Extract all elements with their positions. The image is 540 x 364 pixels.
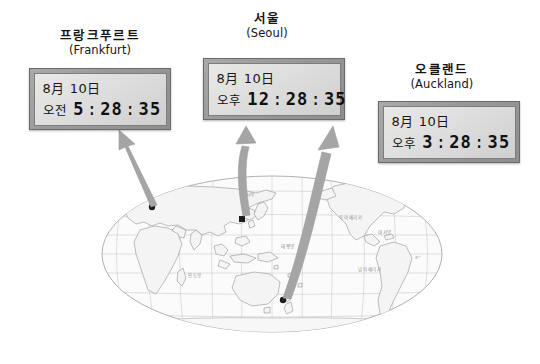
clock-digits-frankfurt: 5:28:35 [73,99,161,119]
time-zone-diagram: 유럽 아시아 북아메리카 대서양 태평양 인도양 남아메리카 0° [0,0,540,364]
scale-bar-zero-label: 0 [169,323,172,328]
clock-digits-seoul: 12:28:35 [247,89,347,109]
map-label-asia: 아시아 [241,191,256,198]
city-caption-seoul: 서울 (Seoul) [197,12,337,40]
clock-hour-seoul: 12 [247,89,270,109]
city-marker-seoul[interactable] [239,216,245,222]
city-name-ko-frankfurt: 프랑크푸르트 [30,29,170,43]
clock-hour-frankfurt: 5 [73,99,84,119]
map-label-indian-ocean: 인도양 [188,272,203,278]
clock-meridiem-auckland: 오후 [392,133,417,152]
map-scale-bar: 0 3000km [169,323,203,332]
city-name-en-frankfurt: (Frankfurt) [30,44,170,57]
clock-time-frankfurt: 오전 5:28:35 [43,99,158,119]
city-name-ko-seoul: 서울 [197,12,337,26]
clock-meridiem-seoul: 오후 [217,90,242,109]
clock-time-auckland: 오후 3:28:35 [392,132,507,152]
clock-seoul[interactable]: 8月 10日 오후 12:28:35 [203,58,345,120]
clock-minute-auckland: 28 [449,132,472,152]
city-marker-frankfurt[interactable] [149,204,155,210]
map-label-north-america: 북아메리카 [339,214,364,221]
clock-date-auckland: 8月 10日 [392,111,507,130]
arrow-to-seoul-head-icon [236,126,256,144]
city-caption-frankfurt: 프랑크푸르트 (Frankfurt) [30,29,170,57]
clock-sep2-frankfurt: : [123,99,138,119]
clock-minute-seoul: 28 [286,89,309,109]
clock-sep1-seoul: : [270,89,285,109]
map-label-south-america: 남아메리카 [358,266,383,273]
clock-screen-seoul: 8月 10日 오후 12:28:35 [208,63,341,116]
city-name-en-auckland: (Auckland) [372,78,512,91]
clock-minute-frankfurt: 28 [100,99,123,119]
arrow-to-auckland-head-icon [318,126,339,150]
city-caption-auckland: 오클랜드 (Auckland) [372,63,512,91]
clock-second-auckland: 35 [488,132,511,152]
clock-hour-auckland: 3 [422,132,433,152]
clock-time-seoul: 오후 12:28:35 [217,89,332,109]
clock-meridiem-frankfurt: 오전 [43,100,68,119]
world-map: 유럽 아시아 북아메리카 대서양 태평양 인도양 남아메리카 0° [98,168,446,348]
clock-screen-frankfurt: 8月 10日 오전 5:28:35 [34,73,167,126]
clock-digits-auckland: 3:28:35 [422,132,510,152]
clock-auckland[interactable]: 8月 10日 오후 3:28:35 [378,101,520,163]
map-label-pacific-ocean: 태평양 [281,243,296,250]
clock-second-seoul: 35 [324,89,347,109]
clock-sep2-seoul: : [309,89,324,109]
city-name-en-seoul: (Seoul) [197,27,337,40]
clock-sep2-auckland: : [472,132,487,152]
clock-screen-auckland: 8月 10日 오후 3:28:35 [383,106,516,159]
clock-sep1-frankfurt: : [85,99,100,119]
clock-second-frankfurt: 35 [139,99,162,119]
clock-frankfurt[interactable]: 8月 10日 오전 5:28:35 [29,68,171,130]
map-label-europe: 유럽 [181,180,191,187]
clock-date-frankfurt: 8月 10日 [43,78,158,97]
map-label-atlantic-ocean: 대서양 [378,229,393,236]
city-marker-auckland[interactable] [280,297,286,303]
city-name-ko-auckland: 오클랜드 [372,63,512,77]
clock-date-seoul: 8月 10日 [217,68,332,87]
clock-sep1-auckland: : [434,132,449,152]
map-label-equator-degree: 0° [415,255,421,260]
